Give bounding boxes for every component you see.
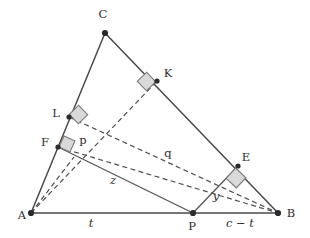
vertex-dot-B	[275, 210, 281, 216]
segment-FP	[58, 147, 193, 213]
segment-label-c-minus-t: c − t	[226, 216, 254, 230]
segment-label-t: t	[89, 216, 94, 230]
side-AC	[31, 33, 105, 213]
point-label-P: P	[188, 219, 196, 233]
point-labels-group: A B C P K L F E	[17, 7, 295, 233]
point-label-F: F	[41, 135, 49, 149]
right-angle-marker-K	[137, 72, 155, 90]
point-label-E: E	[242, 150, 250, 164]
point-label-L: L	[52, 106, 60, 120]
point-label-A: A	[17, 208, 27, 222]
segment-label-q: q	[164, 146, 172, 160]
right-angle-markers-group	[59, 72, 246, 188]
geometry-figure: A B C P K L F E t c − t p q z y	[0, 0, 310, 238]
vertex-dot-A	[28, 210, 34, 216]
right-angle-marker-E	[226, 168, 246, 188]
foot-dot-F	[55, 144, 60, 149]
dashed-segment-AK	[31, 81, 157, 213]
right-angle-marker-L	[69, 105, 87, 123]
point-label-K: K	[164, 66, 173, 80]
points-group	[28, 30, 281, 216]
geometry-diagram-canvas: A B C P K L F E t c − t p q z y	[0, 0, 310, 238]
triangle-edges-group	[31, 33, 278, 213]
vertex-dot-P	[190, 210, 196, 216]
dashed-segment-LB	[69, 117, 278, 213]
dashed-segment-A-to-F-region	[31, 157, 74, 213]
segment-label-p: p	[79, 133, 86, 147]
point-label-B: B	[287, 206, 295, 220]
vertex-dot-C	[102, 30, 108, 36]
segment-labels-group: t c − t p q z y	[79, 133, 254, 230]
foot-dot-E	[235, 163, 240, 168]
segment-label-z: z	[109, 173, 117, 187]
foot-dot-L	[66, 114, 71, 119]
side-CB	[105, 33, 278, 213]
point-label-C: C	[99, 7, 108, 21]
foot-dot-K	[154, 78, 159, 83]
segment-label-y: y	[212, 189, 220, 203]
